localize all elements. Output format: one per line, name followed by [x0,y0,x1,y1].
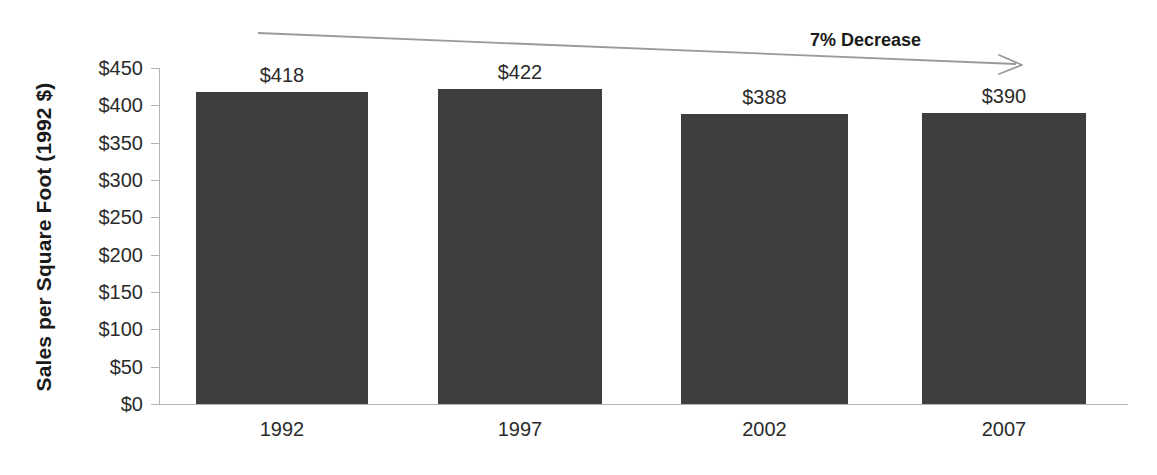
y-tick-mark [151,68,159,69]
decrease-annotation-label: 7% Decrease [810,30,921,51]
plot-area: $0$50$100$150$200$250$300$350$400$450 $4… [159,68,1128,404]
y-tick-label: $450 [55,58,143,78]
y-tick-mark [151,143,159,144]
bar-value-label: $422 [498,61,543,84]
bar [438,89,602,404]
y-tick-label: $300 [55,170,143,190]
y-tick-mark [151,404,159,405]
y-tick-label: $50 [55,357,143,377]
x-axis-label: 2002 [742,418,787,441]
y-tick-label: $400 [55,95,143,115]
bar-chart: Sales per Square Foot (1992 $) $0$50$100… [0,0,1157,475]
bar-value-label: $418 [260,64,305,87]
y-tick-mark [151,367,159,368]
y-tick-mark [151,180,159,181]
bar [196,92,368,404]
y-tick-mark [151,217,159,218]
y-tick-mark [151,292,159,293]
y-tick-label: $350 [55,133,143,153]
y-tick-label: $150 [55,282,143,302]
y-tick-label: $250 [55,207,143,227]
x-axis-label: 2007 [982,418,1027,441]
y-tick-label: $100 [55,319,143,339]
y-tick-mark [151,105,159,106]
bar-value-label: $390 [982,85,1027,108]
y-tick-label: $0 [55,394,143,414]
y-axis-title: Sales per Square Foot (1992 $) [32,37,56,437]
x-axis-label: 1997 [498,418,543,441]
x-axis-line [159,404,1128,405]
bar [922,113,1086,404]
y-tick-label: $200 [55,245,143,265]
y-tick-mark [151,255,159,256]
y-axis-line [159,68,160,404]
bar [681,114,848,404]
bar-value-label: $388 [742,86,787,109]
y-tick-mark [151,329,159,330]
x-axis-label: 1992 [260,418,305,441]
